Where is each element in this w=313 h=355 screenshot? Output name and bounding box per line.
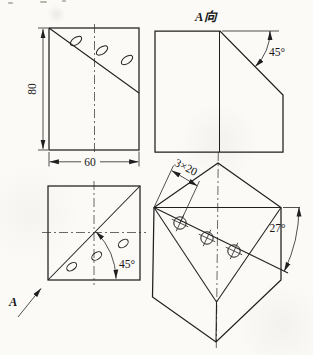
front-view-hole: [69, 34, 84, 47]
plan-view-angle-dimension: 45°: [96, 232, 135, 279]
holes-dimension-label: 3×20: [173, 156, 200, 178]
axon-angle-label: 27°: [269, 222, 286, 234]
plan-view-angle-arc: [96, 232, 116, 279]
scan-artifacts: [8, 0, 66, 4]
front-view-hole: [95, 44, 110, 57]
plan-view-angle-label: 45°: [119, 258, 136, 270]
plan-view-hole: [65, 261, 78, 273]
a-view-angle-dimension: 45°: [222, 31, 285, 66]
front-view-diagonal-edge: [49, 28, 139, 93]
plan-view-hole: [117, 238, 130, 250]
axon-hole: [226, 243, 242, 259]
a-direction-view: A向 45°: [155, 10, 285, 153]
holes-axis-line: [154, 208, 288, 274]
axon-hole: [199, 230, 215, 246]
front-view-hole: [120, 53, 135, 66]
view-direction-indicator: A: [8, 289, 41, 318]
view-direction-label: A: [8, 295, 17, 309]
a-view-title: A向: [194, 10, 218, 24]
width-dimension: 60: [49, 152, 139, 169]
plan-view: 45° A: [8, 181, 146, 317]
a-view-angle-arc: [255, 31, 270, 66]
front-view-holes: [69, 34, 135, 66]
height-dimension: 80: [26, 28, 49, 150]
drawing-sheet: 80 60 A向 45°: [0, 0, 313, 355]
holes-dimension: 3×20: [154, 156, 200, 223]
a-view-angle-label: 45°: [269, 46, 286, 58]
technical-drawing: 80 60 A向 45°: [0, 0, 313, 355]
front-view-outline: [49, 28, 139, 150]
plan-view-hole: [90, 250, 103, 262]
width-dimension-label: 60: [84, 156, 96, 168]
axonometric-view: 3×20 27°: [153, 156, 301, 342]
height-dimension-label: 80: [26, 83, 38, 95]
front-view: 80 60: [26, 24, 140, 168]
axon-angle-arc: [284, 208, 299, 272]
view-direction-arrow: [18, 289, 41, 318]
